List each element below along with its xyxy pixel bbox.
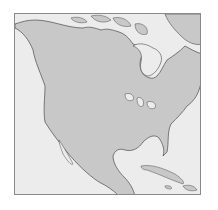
- map-frame: [14, 13, 201, 195]
- north-america-map: [15, 14, 201, 195]
